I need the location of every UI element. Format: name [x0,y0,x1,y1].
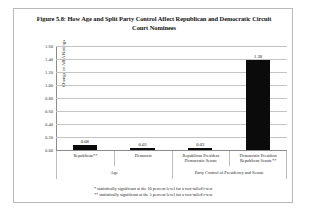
category-label-2: Republican President Democratic Senate [172,151,230,166]
chart-title: Figure 5.8: How Age and Split Party Cont… [32,15,276,32]
y-axis-tick-label: 1.00 [45,83,53,88]
bar-value-label: 1.38 [254,54,262,59]
category-row-bars: Republican**DemocratRepublican President… [56,151,287,166]
figure-container: Figure 5.8: How Age and Split Party Cont… [13,8,293,203]
y-axis-tick-label: 1.20 [45,70,53,75]
footnote-1: ** statistically significant at the 5 pe… [14,192,292,198]
y-axis-tick-label: 0.00 [45,148,53,153]
bar[interactable]: 0.03 [188,148,212,150]
category-label-0: Republican** [56,151,114,166]
y-axis-tick-label: 0.40 [45,122,53,127]
bar[interactable]: 1.38 [246,60,270,150]
bar[interactable]: 0.08 [73,145,97,150]
bar-value-label: 0.03 [139,142,147,147]
y-axis-tick-label: 0.80 [45,96,53,101]
y-axis-tick-label: 0.60 [45,109,53,114]
bar[interactable]: 0.03 [130,148,154,150]
category-row-groups: AgeParty Control of Presidency and Senat… [56,166,287,179]
bar-value-label: 0.08 [81,139,89,144]
group-label-0: Age [56,166,172,179]
group-label-1: Party Control of Presidency and Senate [172,166,288,179]
category-label-3: Democratic President Republican Senate** [229,151,287,166]
footnotes: * statistically significant at the 10 pe… [14,186,292,198]
bar-value-label: 0.03 [196,142,204,147]
plot-area: 1.601.401.201.000.800.600.400.200.000.08… [56,46,287,150]
gridline: 1.60 [56,46,287,47]
category-axis: Republican**DemocratRepublican President… [56,151,287,183]
y-axis-tick-label: 1.60 [45,44,53,49]
y-axis-tick-label: 1.40 [45,57,53,62]
category-label-1: Democrat [114,151,172,166]
y-axis-tick-label: 0.20 [45,135,53,140]
